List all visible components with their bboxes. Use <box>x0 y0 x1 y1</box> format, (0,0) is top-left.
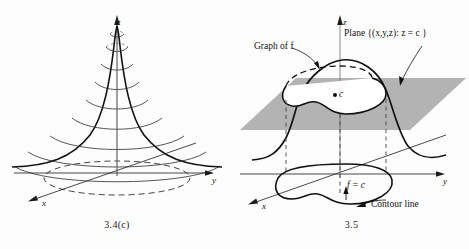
label-graph-of-f: Graph of f <box>254 41 294 51</box>
level-point-marker <box>333 93 337 97</box>
figure-3-5: z y x Graph of f Plane {(x,y,z): z = c }… <box>234 0 469 249</box>
z-axis-label-right: z <box>343 17 347 27</box>
figure-3-4-c: z y x 3.4(c) <box>0 0 234 249</box>
figure-page: z y x 3.4(c) <box>0 0 469 249</box>
leader-plane <box>402 46 422 80</box>
y-axis-right <box>240 171 445 177</box>
label-f-equals-c: f = c <box>347 180 365 190</box>
z-axis-label-left: z <box>117 17 121 27</box>
label-plane: Plane {(x,y,z): z = c } <box>344 28 427 38</box>
x-axis-left <box>28 143 196 202</box>
label-contour-line: Contour line <box>371 199 419 209</box>
x-axis-label-right: x <box>262 201 266 211</box>
figure-3-4-c-graphic <box>0 0 234 215</box>
label-level-value-c: c <box>339 89 343 99</box>
surface-profile-left <box>12 26 117 167</box>
surface-profile-right <box>117 26 222 167</box>
caption-3-4-c: 3.4(c) <box>0 219 234 230</box>
y-axis-label-right: y <box>443 176 447 186</box>
contour-line-curve <box>276 164 392 204</box>
leader-graph-of-f <box>292 48 318 66</box>
x-axis-label-left: x <box>42 198 46 208</box>
y-axis-label-left: y <box>212 175 216 185</box>
caption-3-5: 3.5 <box>234 219 469 230</box>
